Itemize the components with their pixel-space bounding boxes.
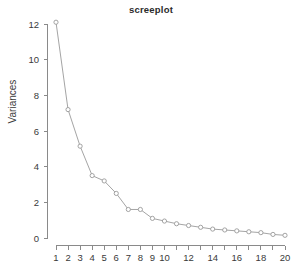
data-point-marker <box>283 233 287 237</box>
y-axis-tick-label: 4 <box>34 161 39 172</box>
data-point-marker <box>271 232 275 236</box>
x-axis-tick-label: 16 <box>232 252 243 263</box>
data-point-marker <box>90 173 94 177</box>
x-axis-tick-label: 18 <box>256 252 267 263</box>
data-point-marker <box>199 225 203 229</box>
y-axis-tick-label: 8 <box>34 90 39 101</box>
data-point-marker <box>138 207 142 211</box>
y-axis-tick-label: 10 <box>28 54 39 65</box>
x-axis-tick-label: 6 <box>114 252 119 263</box>
plot-canvas: 024681012 123456789101214161820 <box>0 0 302 280</box>
x-axis-tick-label: 9 <box>150 252 155 263</box>
data-point-marker <box>126 207 130 211</box>
y-axis-tick-label: 6 <box>34 126 39 137</box>
x-axis-tick-label: 20 <box>280 252 291 263</box>
x-axis-tick-label: 14 <box>207 252 218 263</box>
x-axis: 123456789101214161820 <box>53 246 290 264</box>
y-axis-tick-label: 12 <box>28 19 39 30</box>
data-series-variances <box>54 20 287 237</box>
data-point-marker <box>114 191 118 195</box>
data-point-marker <box>247 230 251 234</box>
data-point-marker <box>223 228 227 232</box>
data-point-marker <box>211 227 215 231</box>
y-axis-tick-label: 2 <box>34 197 39 208</box>
x-axis-tick-label: 2 <box>65 252 70 263</box>
x-axis-tick-label: 5 <box>102 252 107 263</box>
y-axis: 024681012 <box>28 19 47 244</box>
y-axis-tick-label: 0 <box>34 233 39 244</box>
data-point-marker <box>186 223 190 227</box>
data-point-marker <box>174 222 178 226</box>
x-axis-tick-label: 10 <box>159 252 170 263</box>
x-axis-tick-label: 4 <box>90 252 95 263</box>
data-point-marker <box>66 108 70 112</box>
data-point-marker <box>162 219 166 223</box>
x-axis-tick-label: 1 <box>53 252 58 263</box>
data-point-marker <box>235 229 239 233</box>
series-line <box>56 22 285 235</box>
x-axis-tick-label: 3 <box>77 252 82 263</box>
data-point-marker <box>150 216 154 220</box>
screeplot-figure: screeplot Variances 024681012 1234567891… <box>0 0 302 280</box>
data-point-marker <box>78 144 82 148</box>
x-axis-tick-label: 12 <box>183 252 194 263</box>
data-point-marker <box>259 231 263 235</box>
x-axis-tick-label: 7 <box>126 252 131 263</box>
data-point-marker <box>54 20 58 24</box>
x-axis-tick-label: 8 <box>138 252 143 263</box>
data-point-marker <box>102 179 106 183</box>
